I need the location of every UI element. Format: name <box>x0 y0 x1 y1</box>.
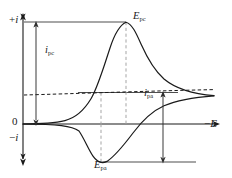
reverse-anodic-scan-curve <box>23 96 214 163</box>
y-axis-zero-label: 0 <box>12 116 18 127</box>
ipa-label: ipa <box>144 88 153 99</box>
cv-plot-canvas <box>0 0 232 178</box>
cyclic-voltammogram-figure: +i 0 −i −E Epc Epa ipc ipa <box>0 0 232 178</box>
dashed-guides-group <box>24 22 214 162</box>
y-axis-positive-symbol: i <box>15 13 18 25</box>
ipc-label: ipc <box>45 45 54 56</box>
epa-subscript: pa <box>100 164 107 171</box>
forward-cathodic-scan-curve <box>23 22 214 124</box>
y-axis-negative-label: −i <box>9 132 18 143</box>
y-axis-arrow-down <box>20 159 26 166</box>
x-axis-label: −E <box>204 118 217 129</box>
x-axis-symbol: E <box>210 117 217 129</box>
ipc-subscript: pc <box>48 49 55 56</box>
ipc-arrow-down <box>33 119 38 126</box>
axis-group <box>20 13 220 166</box>
epc-subscript: pc <box>139 15 146 22</box>
y-axis-negative-symbol: i <box>15 131 18 143</box>
ipa-subscript: pa <box>147 92 154 99</box>
epa-label: Epa <box>94 160 107 171</box>
y-axis-positive-label: +i <box>9 14 18 25</box>
epc-label: Epc <box>133 11 146 22</box>
reference-lines-group <box>24 22 196 162</box>
